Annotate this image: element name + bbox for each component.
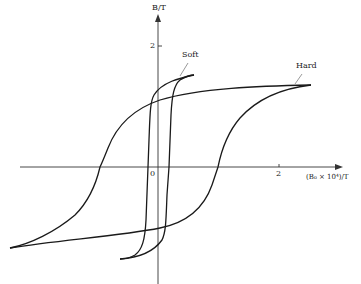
x-axis-label: (B₀ × 10⁴)/T <box>306 174 348 181</box>
y-axis-arrow-icon <box>155 14 161 22</box>
x-tick-label: 2 <box>276 170 281 178</box>
hysteresis-diagram <box>0 0 361 284</box>
hard-leader-line <box>295 74 302 84</box>
soft-leader-line <box>180 63 188 76</box>
soft-curve-label: Soft <box>182 51 198 59</box>
x-axis-arrow-icon <box>335 164 343 170</box>
origin-label: 0 <box>150 170 155 178</box>
hard-loop-upper <box>10 85 311 248</box>
hard-curve-label: Hard <box>296 62 317 70</box>
y-tick-label: 2 <box>150 42 155 50</box>
hard-loop-lower <box>10 85 311 248</box>
y-axis-label: B/T <box>152 4 166 12</box>
